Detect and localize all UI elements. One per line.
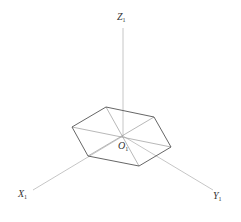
y-axis-label-sub: 1 <box>219 196 222 202</box>
x-axis-line <box>33 136 123 190</box>
hexagon-diagonal <box>106 107 139 166</box>
z-axis-label: Z1 <box>117 12 126 23</box>
x-axis-label: X1 <box>18 189 27 200</box>
x-axis-label-sub: 1 <box>24 194 27 200</box>
origin-label-sub: 1 <box>125 146 128 152</box>
y-axis-line <box>123 136 213 190</box>
y-axis-label: Y1 <box>213 191 222 202</box>
z-axis-label-sub: 1 <box>123 17 126 23</box>
diagram-canvas <box>0 0 241 222</box>
origin-label: O1 <box>118 141 128 152</box>
